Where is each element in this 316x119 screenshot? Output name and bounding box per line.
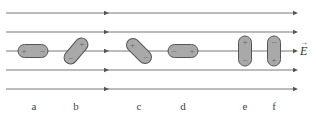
field-line-4 <box>6 68 298 72</box>
minus-sign-icon: − <box>271 37 276 47</box>
dipole-label-f: f <box>272 100 276 112</box>
dipole-label-e: e <box>243 100 248 112</box>
dipole-label-b: b <box>73 100 79 112</box>
plus-sign-icon: + <box>21 46 26 56</box>
minus-sign-icon: − <box>242 55 247 65</box>
plus-sign-icon: + <box>130 40 135 50</box>
minus-sign-icon: − <box>171 46 176 56</box>
diagram-canvas: +−+−+−+−+−+− <box>0 0 316 119</box>
dipole-label-a: a <box>32 100 37 112</box>
dipole-e: +− <box>239 36 252 66</box>
dipole-label-c: c <box>137 100 142 112</box>
minus-sign-icon: − <box>143 52 148 62</box>
plus-sign-icon: + <box>271 55 276 65</box>
field-label-vector-arrow: → <box>300 38 308 47</box>
dipole-diagram: +−+−+−+−+−+− E → a b c d e f <box>0 0 316 119</box>
dipole-d: +− <box>168 45 198 58</box>
field-line-2 <box>6 30 298 34</box>
plus-sign-icon: + <box>79 39 84 49</box>
dipole-a: +− <box>18 45 48 58</box>
dipole-label-d: d <box>180 100 186 112</box>
field-line-3 <box>6 49 298 53</box>
field-line-1 <box>6 11 298 15</box>
plus-sign-icon: + <box>189 46 194 56</box>
plus-sign-icon: + <box>242 37 247 47</box>
field-line-5 <box>6 87 298 91</box>
minus-sign-icon: − <box>39 46 44 56</box>
dipole-f: +− <box>268 36 281 66</box>
minus-sign-icon: − <box>68 53 73 63</box>
